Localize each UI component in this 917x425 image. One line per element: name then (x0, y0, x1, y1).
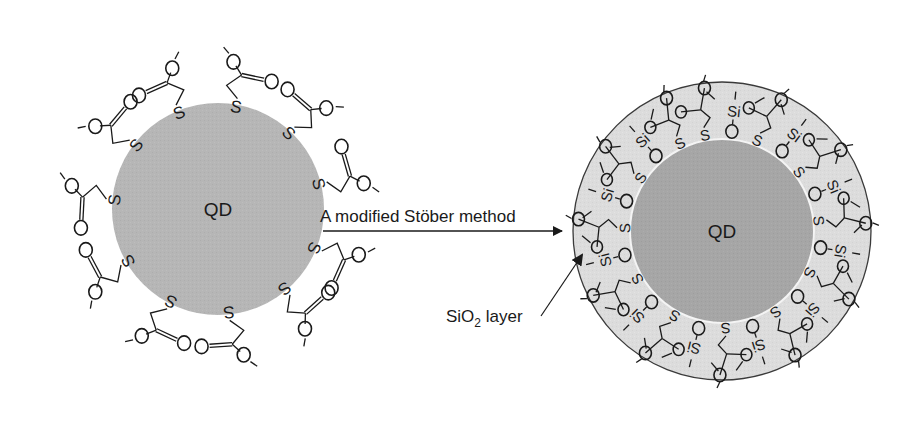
process-label: A modified Stöber method (320, 207, 516, 226)
surface-bond-tick (717, 382, 720, 388)
surface-bond-tick (784, 89, 789, 93)
carbonyl-double-bond (306, 299, 323, 314)
o-si-bond (828, 249, 833, 250)
surface-bond-tick (704, 75, 706, 81)
diagram-canvas: QD SSSSSSSSSSS A modified Stöber method … (0, 0, 917, 425)
terminal-oxygen (352, 247, 365, 262)
carbonyl-double-bond (345, 154, 351, 176)
ch2-bond (230, 320, 244, 344)
surface-bond-tick (566, 215, 572, 218)
sio2-label-group: SiO2 layer (446, 255, 582, 330)
negative-charge-mark (250, 362, 257, 367)
ch2-bond (111, 125, 130, 143)
thioglycolate-ligand: S (133, 52, 189, 124)
carbonyl-double-bond (83, 197, 84, 220)
negative-charge-mark (224, 47, 229, 53)
negative-charge-mark (90, 301, 91, 309)
ch2-bond (150, 309, 167, 330)
carbonyl-oxygen (74, 221, 87, 236)
negative-charge-mark (368, 248, 375, 252)
thioglycolate-ligand: S (224, 47, 278, 117)
sio2-label-main: SiO (446, 307, 474, 326)
negative-charge-mark (60, 173, 65, 180)
left-qd-label: QD (204, 199, 233, 220)
carbonyl-oxygen (335, 139, 348, 154)
thioglycolate-ligand: S (78, 94, 148, 155)
ch2-bond (287, 295, 305, 313)
carbonyl-double-bond (295, 93, 312, 108)
sulfur-atom: S (105, 194, 125, 207)
process-arrow-group: A modified Stöber method (320, 207, 562, 231)
ch2-bond (167, 83, 184, 105)
surface-bond-tick (855, 302, 859, 307)
right-qd-label: QD (708, 221, 737, 242)
surface-bond-tick (847, 145, 853, 146)
terminal-oxygen (65, 179, 78, 194)
carbonyl-double-bond (844, 198, 845, 218)
surface-bond-tick (873, 223, 879, 225)
carbonyl-oxygen (325, 281, 338, 296)
sulfur-atom: S (720, 320, 731, 337)
carbonyl-oxygen (281, 82, 294, 97)
sulfur-atom: S (616, 223, 633, 234)
terminal-oxygen (135, 329, 148, 344)
carbonyl-double-bond (210, 346, 233, 348)
thioglycolate-ligand: S (278, 82, 344, 144)
si-bond-stub (735, 92, 736, 100)
negative-charge-mark (78, 126, 86, 128)
right-quantum-dot-group: QD SSiSSiSSiSSiSSiSSiSSiSSiSSiSSiSSiS (566, 75, 879, 388)
diagram-svg: QD SSSSSSSSSSS A modified Stöber method … (0, 0, 917, 425)
carbonyl-oxygen (178, 336, 191, 351)
carbonyl-oxygen (265, 74, 278, 89)
sulfur-atom: S (222, 302, 235, 322)
negative-charge-mark (125, 340, 133, 342)
surface-bond-tick (636, 359, 641, 363)
sio2-label-suffix: layer (481, 307, 523, 326)
surface-bond-tick (799, 361, 800, 368)
thioglycolate-ligand: S (308, 139, 379, 192)
sio2-layer-label: SiO2 layer (446, 307, 523, 330)
thioglycolate-ligand: S (303, 239, 375, 295)
carbonyl-oxygen (79, 243, 92, 258)
sio2-pointer-arrow (541, 255, 582, 316)
carbonyl-double-bond (304, 297, 321, 312)
carbonyl-double-bond (727, 354, 747, 355)
negative-charge-mark (372, 187, 379, 192)
carbonyl-double-bond (209, 343, 232, 345)
surface-bond-tick (597, 136, 600, 142)
carbonyl-double-bond (110, 107, 125, 124)
ch2-bond (100, 265, 121, 282)
carbonyl-double-bond (342, 155, 348, 177)
terminal-oxygen (320, 101, 333, 116)
si-bond-stub (807, 332, 808, 343)
negative-charge-mark (175, 52, 179, 59)
carbonyl-double-bond (293, 96, 310, 111)
terminal-oxygen (89, 119, 102, 134)
silicon-atom: Si (726, 102, 741, 120)
silicon-atom: Si (831, 243, 850, 259)
terminal-oxygen (227, 55, 240, 70)
terminal-oxygen (237, 347, 250, 362)
ch2-bond (327, 176, 350, 192)
terminal-oxygen (166, 61, 179, 76)
sulfur-atom: S (810, 215, 828, 227)
terminal-oxygen (89, 284, 102, 299)
ch2-bond (294, 110, 311, 128)
carbonyl-double-bond (80, 197, 81, 220)
carbonyl-oxygen (322, 285, 335, 300)
ch2-bond (83, 185, 107, 199)
carbonyl-double-bond (112, 109, 127, 126)
carbonyl-oxygen (195, 339, 208, 354)
terminal-oxygen (357, 176, 370, 191)
ch2-bond (227, 75, 242, 99)
negative-charge-mark (304, 338, 305, 346)
